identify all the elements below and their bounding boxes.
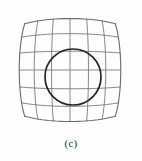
figure-caption: (c) bbox=[0, 136, 142, 150]
grid-mesh bbox=[19, 19, 121, 122]
figure-panel: (c) bbox=[0, 0, 142, 161]
circle-overlay bbox=[45, 49, 101, 105]
distortion-diagram bbox=[0, 0, 142, 137]
